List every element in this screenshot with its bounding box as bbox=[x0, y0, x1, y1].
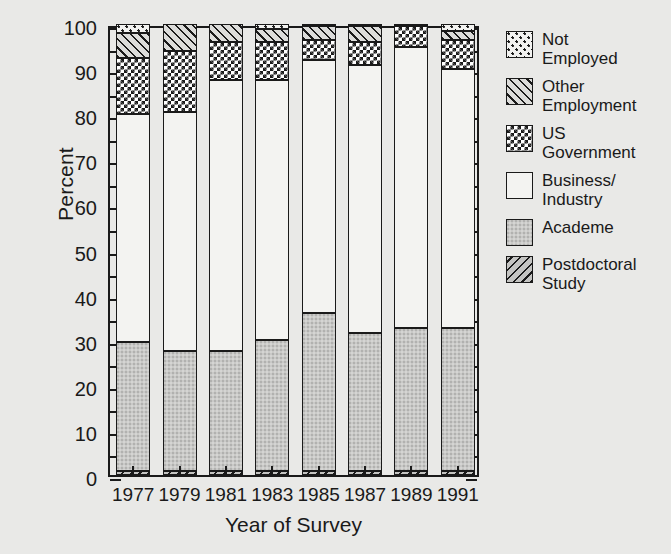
legend-item-label: Postdoctoral Study bbox=[542, 255, 637, 293]
legend-swatch-other-employment bbox=[506, 78, 533, 105]
bar-segment-academe[interactable] bbox=[441, 328, 475, 470]
legend-item-academe[interactable]: Academe bbox=[506, 218, 666, 246]
bar-segment-other-employment[interactable] bbox=[209, 24, 243, 42]
legend-swatch-postdoctoral-study bbox=[506, 256, 533, 283]
y-axis-tick-label: 30 bbox=[75, 332, 97, 355]
chart-root: Percent Year of Survey 01020304050607080… bbox=[0, 0, 671, 554]
x-axis-tick-label-1991: 1991 bbox=[437, 484, 479, 506]
x-axis-tick bbox=[132, 466, 134, 475]
bar-segment-not-employed[interactable] bbox=[348, 24, 382, 26]
bar-segment-academe[interactable] bbox=[209, 351, 243, 471]
legend-item-label: Other Employment bbox=[542, 77, 636, 115]
bar-segment-other-employment[interactable] bbox=[348, 26, 382, 42]
bar-segment-business-industry[interactable] bbox=[348, 65, 382, 333]
x-axis-tick bbox=[179, 466, 181, 475]
bar-segment-us-government[interactable] bbox=[441, 40, 475, 69]
y-axis-tick-label: 40 bbox=[75, 287, 97, 310]
bar-segment-not-employed[interactable] bbox=[255, 24, 289, 29]
legend-swatch-business-industry bbox=[506, 172, 533, 199]
x-axis-tick-label-1983: 1983 bbox=[251, 484, 293, 506]
bar-1991[interactable] bbox=[441, 24, 475, 475]
bar-segment-us-government[interactable] bbox=[116, 58, 150, 114]
legend-swatch-academe bbox=[506, 219, 533, 246]
bar-segment-other-employment[interactable] bbox=[116, 33, 150, 58]
x-axis-tick bbox=[318, 466, 320, 475]
bar-segment-business-industry[interactable] bbox=[116, 114, 150, 342]
x-axis-tick bbox=[364, 466, 366, 475]
tick-mark-left bbox=[110, 479, 121, 481]
bar-segment-business-industry[interactable] bbox=[163, 112, 197, 351]
bar-segment-business-industry[interactable] bbox=[255, 80, 289, 339]
y-axis-tick-label: 100 bbox=[64, 17, 97, 40]
x-axis-tick-label-1977: 1977 bbox=[112, 484, 154, 506]
bar-segment-not-employed[interactable] bbox=[441, 24, 475, 31]
y-axis-tick-label: 10 bbox=[75, 422, 97, 445]
x-axis-label: Year of Survey bbox=[108, 513, 479, 537]
x-axis-tick-label-1981: 1981 bbox=[205, 484, 247, 506]
plot-area: 0102030405060708090100197719791981198319… bbox=[108, 26, 479, 477]
bar-segment-us-government[interactable] bbox=[348, 42, 382, 65]
bar-segment-academe[interactable] bbox=[163, 351, 197, 471]
bar-1977[interactable] bbox=[116, 24, 150, 475]
y-axis-tick-label: 70 bbox=[75, 152, 97, 175]
y-axis-tick-label: 60 bbox=[75, 197, 97, 220]
bar-1979[interactable] bbox=[163, 24, 197, 475]
bar-segment-other-employment[interactable] bbox=[302, 26, 336, 40]
legend-swatch-us-government bbox=[506, 125, 533, 152]
x-axis-tick bbox=[410, 466, 412, 475]
y-axis-tick-label: 50 bbox=[75, 242, 97, 265]
y-axis-tick-label: 90 bbox=[75, 62, 97, 85]
legend-item-not-employed[interactable]: Not Employed bbox=[506, 30, 666, 68]
y-axis-tick-label: 0 bbox=[86, 468, 97, 491]
bar-segment-other-employment[interactable] bbox=[394, 24, 428, 26]
bar-segment-academe[interactable] bbox=[302, 313, 336, 471]
x-axis-tick-label-1979: 1979 bbox=[158, 484, 200, 506]
x-axis-tick-label-1989: 1989 bbox=[390, 484, 432, 506]
x-axis-tick bbox=[457, 466, 459, 475]
y-axis-tick-label: 80 bbox=[75, 107, 97, 130]
bar-1989[interactable] bbox=[394, 24, 428, 475]
bar-segment-us-government[interactable] bbox=[302, 40, 336, 60]
legend-item-label: US Government bbox=[542, 124, 636, 162]
bar-segment-us-government[interactable] bbox=[394, 26, 428, 46]
legend-swatch-not-employed bbox=[506, 31, 533, 58]
legend-item-other-employment[interactable]: Other Employment bbox=[506, 77, 666, 115]
bar-segment-business-industry[interactable] bbox=[441, 69, 475, 328]
bar-segment-other-employment[interactable] bbox=[441, 31, 475, 40]
y-axis-tick-label: 20 bbox=[75, 377, 97, 400]
bar-segment-academe[interactable] bbox=[394, 328, 428, 470]
bar-segment-us-government[interactable] bbox=[255, 42, 289, 80]
legend-item-label: Not Employed bbox=[542, 30, 618, 68]
tick-mark-right bbox=[466, 479, 477, 481]
bar-segment-us-government[interactable] bbox=[163, 51, 197, 112]
x-axis-tick bbox=[271, 466, 273, 475]
legend-item-postdoctoral-study[interactable]: Postdoctoral Study bbox=[506, 255, 666, 293]
bar-segment-business-industry[interactable] bbox=[302, 60, 336, 313]
bar-segment-business-industry[interactable] bbox=[394, 47, 428, 329]
legend-item-business-industry[interactable]: Business/ Industry bbox=[506, 171, 666, 209]
bar-segment-not-employed[interactable] bbox=[302, 24, 336, 26]
legend-item-us-government[interactable]: US Government bbox=[506, 124, 666, 162]
bar-1987[interactable] bbox=[348, 24, 382, 475]
bar-1983[interactable] bbox=[255, 24, 289, 475]
bar-segment-us-government[interactable] bbox=[209, 42, 243, 80]
x-axis-tick bbox=[225, 466, 227, 475]
bar-segment-other-employment[interactable] bbox=[255, 29, 289, 43]
bar-segment-academe[interactable] bbox=[255, 340, 289, 471]
x-axis-tick-label-1987: 1987 bbox=[344, 484, 386, 506]
x-axis-tick-label-1985: 1985 bbox=[298, 484, 340, 506]
bar-segment-not-employed[interactable] bbox=[116, 24, 150, 33]
legend-item-label: Business/ Industry bbox=[542, 171, 616, 209]
legend-item-label: Academe bbox=[542, 218, 614, 237]
bar-segment-academe[interactable] bbox=[116, 342, 150, 471]
bar-segment-other-employment[interactable] bbox=[163, 24, 197, 51]
bar-1981[interactable] bbox=[209, 24, 243, 475]
bar-segment-academe[interactable] bbox=[348, 333, 382, 471]
chart-legend: Not EmployedOther EmploymentUS Governmen… bbox=[506, 30, 666, 302]
bar-segment-business-industry[interactable] bbox=[209, 80, 243, 351]
bar-1985[interactable] bbox=[302, 24, 336, 475]
